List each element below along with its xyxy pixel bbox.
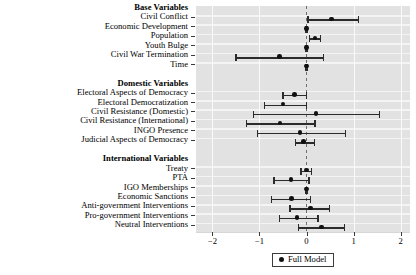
estimate-point xyxy=(304,64,309,69)
ci-cap-high xyxy=(379,111,380,118)
y-axis-tick xyxy=(191,225,195,226)
ci-cap-low xyxy=(300,168,301,175)
legend: Full Model xyxy=(196,253,410,273)
plot-panel xyxy=(196,6,410,232)
variable-label: IGO Memberships xyxy=(124,183,188,192)
y-axis-tick xyxy=(191,215,195,216)
estimate-point xyxy=(304,187,309,192)
x-axis-tick xyxy=(259,232,260,236)
y-axis-tick xyxy=(191,130,195,131)
estimate-point xyxy=(304,45,309,50)
x-axis-tick xyxy=(307,232,308,236)
y-axis-tick xyxy=(191,197,195,198)
y-axis-tick xyxy=(191,26,195,27)
variable-label: Youth Bulge xyxy=(145,41,188,50)
estimate-point xyxy=(304,26,309,31)
ci-cap-high xyxy=(314,139,315,146)
ci-cap-high xyxy=(306,102,307,109)
variable-label: Time xyxy=(170,60,188,69)
variable-label: Civil War Termination xyxy=(111,50,188,59)
ci-cap-low xyxy=(295,139,296,146)
estimate-point xyxy=(314,111,319,116)
ci-cap-high xyxy=(308,177,309,184)
variable-label: Anti-government Interventions xyxy=(81,201,188,210)
ci-cap-high xyxy=(320,35,321,42)
variable-label: Neutral Interventions xyxy=(115,220,188,229)
x-axis: −2−1012 xyxy=(196,232,410,252)
ci-cap-high xyxy=(314,120,315,127)
variable-label: Economic Sanctions xyxy=(118,192,188,201)
y-axis-tick xyxy=(191,55,195,56)
estimate-point xyxy=(298,130,303,135)
y-axis-tick xyxy=(191,93,195,94)
ci-cap-low xyxy=(235,54,236,61)
x-axis-tick xyxy=(212,232,213,236)
y-axis-tick xyxy=(191,140,195,141)
ci-cap-low xyxy=(257,130,258,137)
estimate-point xyxy=(319,225,324,230)
variable-label-column: Base VariablesCivil ConflictEconomic Dev… xyxy=(0,0,196,232)
variable-label: Judicial Aspects of Democracy xyxy=(81,135,188,144)
ci-cap-high xyxy=(323,54,324,61)
ci-cap-high xyxy=(358,16,359,23)
ci-cap-low xyxy=(246,120,247,127)
variable-label: INGO Presence xyxy=(134,126,188,135)
variable-label: Treaty xyxy=(166,164,188,173)
estimate-row xyxy=(196,137,410,148)
ci-cap-low xyxy=(273,177,274,184)
ci-cap-low xyxy=(282,92,283,99)
variable-label: Electoral Democratization xyxy=(98,98,188,107)
group-heading: Domestic Variables xyxy=(118,79,188,88)
ci-cap-low xyxy=(298,224,299,231)
coefficient-plot: Base VariablesCivil ConflictEconomic Dev… xyxy=(0,0,416,275)
y-axis-tick xyxy=(191,64,195,65)
ci-cap-high xyxy=(306,92,307,99)
x-axis-tick-label: −1 xyxy=(255,237,264,246)
y-axis-tick xyxy=(191,206,195,207)
legend-entry-full-model: Full Model xyxy=(272,253,335,267)
variable-label: Electoral Aspects of Democracy xyxy=(77,88,188,97)
ci-cap-high xyxy=(311,168,312,175)
y-axis-tick xyxy=(191,187,195,188)
estimate-point xyxy=(308,206,313,211)
group-heading: International Variables xyxy=(103,154,188,163)
legend-label: Full Model xyxy=(288,255,326,264)
estimate-point xyxy=(289,196,294,201)
ci-cap-low xyxy=(271,196,272,203)
y-axis-tick xyxy=(191,178,195,179)
ci-cap-high xyxy=(344,224,345,231)
variable-label: Civil Resistance (Domestic) xyxy=(91,107,188,116)
ci-cap-low xyxy=(264,102,265,109)
x-axis-tick-label: 1 xyxy=(351,237,355,246)
y-axis-tick xyxy=(191,36,195,37)
ci-cap-low xyxy=(289,205,290,212)
ci-cap-high xyxy=(317,215,318,222)
y-axis-tick xyxy=(191,121,195,122)
ci-cap-high xyxy=(345,130,346,137)
y-axis-tick xyxy=(191,45,195,46)
estimate-point xyxy=(295,215,300,220)
x-axis-tick-label: 2 xyxy=(398,237,402,246)
ci-cap-high xyxy=(329,205,330,212)
confidence-interval-line xyxy=(264,105,306,106)
y-axis-tick xyxy=(191,102,195,103)
variable-label: Pro-government Interventions xyxy=(85,211,188,220)
x-axis-tick-label: 0 xyxy=(304,237,308,246)
estimate-row xyxy=(196,222,410,232)
x-axis-tick xyxy=(401,232,402,236)
axis-line xyxy=(196,232,410,233)
ci-cap-low xyxy=(309,35,310,42)
estimate-point xyxy=(329,17,334,22)
x-axis-tick-label: −2 xyxy=(208,237,217,246)
estimate-point xyxy=(289,177,294,182)
ci-cap-low xyxy=(279,215,280,222)
ci-cap-high xyxy=(310,196,311,203)
variable-label: Population xyxy=(151,31,188,40)
y-axis-tick xyxy=(191,168,195,169)
estimate-point xyxy=(277,54,282,59)
estimate-row xyxy=(196,62,410,73)
ci-cap-low xyxy=(307,16,308,23)
x-axis-tick xyxy=(354,232,355,236)
estimate-point xyxy=(292,92,297,97)
ci-cap-low xyxy=(253,111,254,118)
